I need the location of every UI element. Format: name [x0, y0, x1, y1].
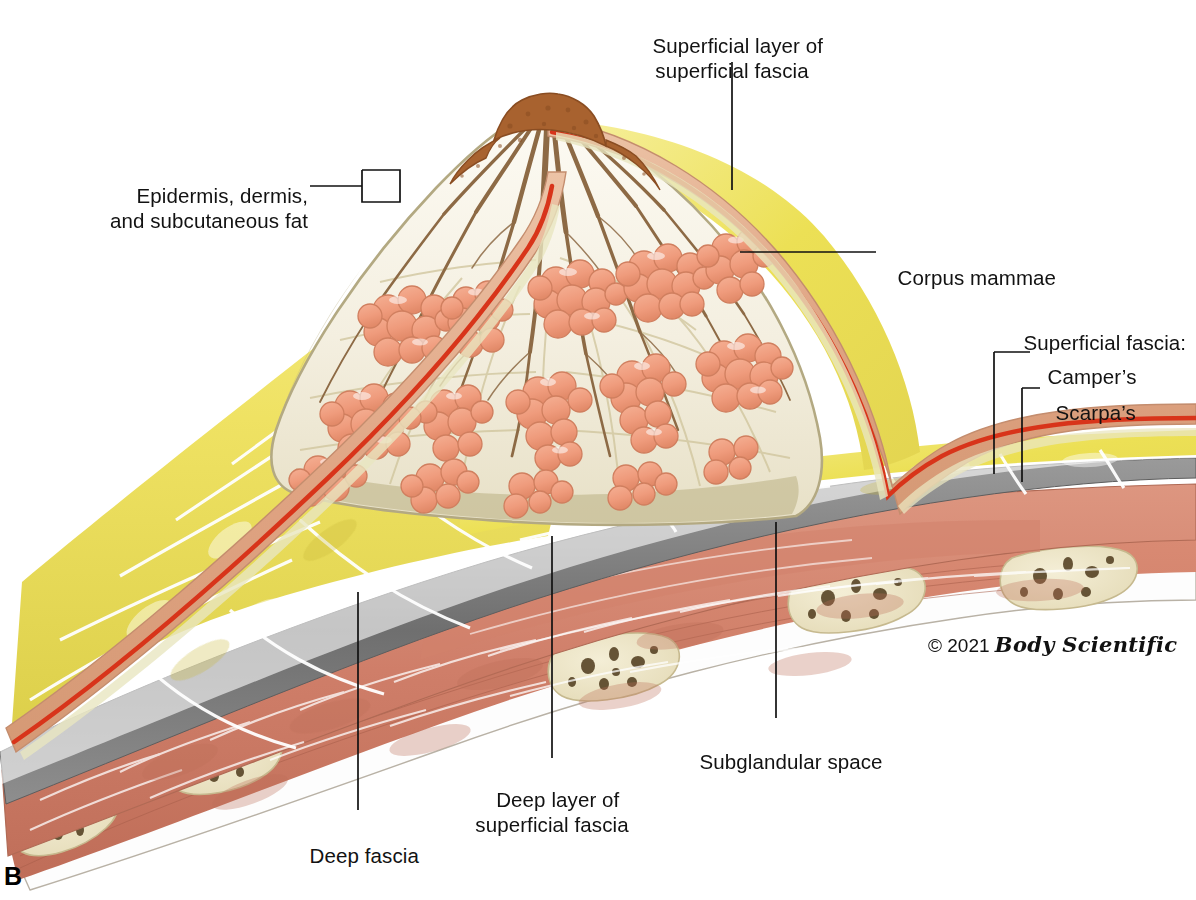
label-deep-layer: Deep layer of superficial fascia [424, 762, 680, 837]
figure-canvas: Superficial layer of superficial fascia … [0, 0, 1196, 900]
copyright-notice: © 2021 Body Scientific [928, 632, 1177, 657]
label-subglandular-space: Subglandular space [688, 724, 883, 774]
label-scarpas: Scarpa’s [1044, 375, 1136, 425]
panel-label-b: B [4, 862, 22, 891]
label-epidermis-dermis: Epidermis, dermis, and subcutaneous fat [40, 158, 308, 233]
label-corpus-mammae: Corpus mammae [886, 240, 1056, 290]
label-deep-fascia: Deep fascia [298, 818, 419, 868]
bracket-epidermis [362, 170, 400, 202]
copyright-brand: Body Scientific [995, 632, 1178, 657]
label-superficial-layer: Superficial layer of superficial fascia [592, 8, 872, 83]
copyright-year: © 2021 [928, 635, 990, 656]
